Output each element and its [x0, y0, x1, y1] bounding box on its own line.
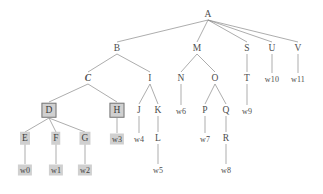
tree-node-t[interactable]: T — [242, 72, 252, 85]
tree-node-w11[interactable]: w11 — [289, 74, 307, 85]
tree-node-e[interactable]: E — [20, 132, 30, 145]
tree-edge — [208, 20, 272, 42]
tree-node-u[interactable]: U — [266, 42, 277, 55]
tree-edge — [25, 118, 49, 132]
tree-node-h[interactable]: H — [109, 103, 124, 118]
tree-node-m[interactable]: M — [191, 42, 204, 55]
tree-edge — [49, 118, 85, 132]
tree-node-d[interactable]: D — [41, 103, 56, 118]
tree-node-b[interactable]: B — [112, 42, 123, 55]
tree-node-r[interactable]: R — [221, 132, 232, 145]
tree-edge — [215, 84, 226, 104]
tree-node-g[interactable]: G — [79, 132, 90, 145]
tree-node-o[interactable]: O — [209, 72, 220, 85]
tree-edge — [181, 54, 197, 72]
tree-node-w7[interactable]: w7 — [198, 134, 212, 145]
tree-node-f[interactable]: F — [51, 132, 60, 145]
tree-node-w6[interactable]: w6 — [174, 106, 188, 117]
tree-node-s[interactable]: S — [242, 42, 251, 55]
tree-node-q[interactable]: Q — [220, 104, 231, 117]
tree-node-w10[interactable]: w10 — [263, 74, 281, 85]
tree-edge — [49, 84, 88, 102]
tree-edge — [197, 54, 215, 72]
tree-edge — [88, 84, 117, 102]
tree-edge — [139, 84, 150, 104]
tree-edge — [205, 84, 215, 104]
tree-edge — [117, 54, 150, 72]
tree-edge — [88, 54, 117, 72]
tree-node-n[interactable]: N — [175, 72, 186, 85]
tree-edge — [197, 20, 208, 42]
tree-node-a[interactable]: A — [202, 8, 213, 21]
tree-node-i[interactable]: I — [146, 72, 153, 85]
tree-node-v[interactable]: V — [292, 42, 303, 55]
syntax-tree-figure: ABMSUVCINOTw10w11DHJKw6PQw9EFGw3w4Lw7Rw0… — [0, 0, 323, 194]
tree-edge — [208, 20, 247, 42]
tree-node-w5[interactable]: w5 — [151, 165, 165, 176]
tree-node-w4[interactable]: w4 — [132, 134, 146, 145]
tree-node-w8[interactable]: w8 — [219, 165, 233, 176]
tree-node-j[interactable]: J — [135, 104, 143, 117]
tree-node-w9[interactable]: w9 — [240, 106, 254, 117]
tree-node-w1[interactable]: w1 — [49, 165, 63, 176]
tree-edge — [117, 20, 208, 42]
tree-node-k[interactable]: K — [152, 104, 163, 117]
tree-node-c[interactable]: C — [83, 72, 94, 85]
tree-node-w2[interactable]: w2 — [78, 165, 92, 176]
tree-node-l[interactable]: L — [153, 132, 163, 145]
tree-edge — [150, 84, 158, 104]
tree-node-w3[interactable]: w3 — [110, 134, 124, 145]
tree-node-p[interactable]: P — [200, 104, 209, 117]
tree-node-w0[interactable]: w0 — [18, 165, 32, 176]
tree-edge — [208, 20, 298, 42]
